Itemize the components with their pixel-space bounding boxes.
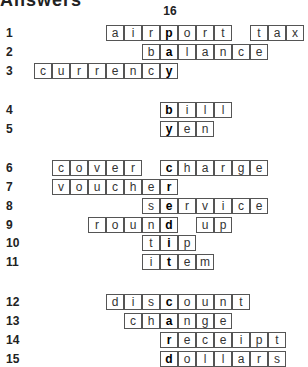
letter-cell: c <box>232 198 250 214</box>
letter-cell: u <box>196 294 214 310</box>
letter-cell: n <box>214 44 232 60</box>
letter-cell: r <box>196 25 214 41</box>
key-letter-cell: b <box>160 102 178 118</box>
letter-cell: t <box>268 332 286 348</box>
letter-cell: x <box>286 25 304 41</box>
letter-cell: e <box>250 160 268 176</box>
letter-cell: t <box>232 294 250 310</box>
letter-cell: i <box>232 332 250 348</box>
letter-cell: r <box>88 63 106 79</box>
letter-cell: u <box>196 217 214 233</box>
letter-cell: n <box>196 121 214 137</box>
letter-cell: v <box>196 198 214 214</box>
row-number: 12 <box>6 295 28 309</box>
row-number: 13 <box>6 314 28 328</box>
letter-cell: s <box>268 351 286 367</box>
letter-cell: n <box>214 294 232 310</box>
key-letter-cell: r <box>160 179 178 195</box>
row-number: 5 <box>6 122 28 136</box>
letter-cell: c <box>124 313 142 329</box>
letter-cell: h <box>124 179 142 195</box>
letter-cell: l <box>178 44 196 60</box>
letter-cell: o <box>178 25 196 41</box>
key-letter-cell: p <box>160 25 178 41</box>
letter-cell: r <box>124 160 142 176</box>
row-number: 2 <box>6 45 28 59</box>
letter-cell: r <box>250 351 268 367</box>
hidden-word-number: 16 <box>161 4 179 18</box>
letter-cell: a <box>106 25 124 41</box>
letter-cell: i <box>124 25 142 41</box>
letter-cell: e <box>178 332 196 348</box>
letter-cell: e <box>214 313 232 329</box>
letter-cell: i <box>142 254 160 270</box>
key-letter-cell: y <box>160 63 178 79</box>
letter-cell: r <box>214 160 232 176</box>
key-letter-cell: c <box>160 294 178 310</box>
letter-cell: t <box>214 25 232 41</box>
row-number: 11 <box>6 255 28 269</box>
letter-cell: a <box>268 25 286 41</box>
letter-cell: m <box>196 254 214 270</box>
key-letter-cell: t <box>160 254 178 270</box>
letter-cell: o <box>70 179 88 195</box>
letter-cell: h <box>178 160 196 176</box>
letter-cell: u <box>88 179 106 195</box>
letter-cell: g <box>196 313 214 329</box>
letter-cell: e <box>142 179 160 195</box>
letter-cell: l <box>196 351 214 367</box>
letter-cell: i <box>178 102 196 118</box>
row-number: 7 <box>6 180 28 194</box>
letter-cell: a <box>232 351 250 367</box>
row-number: 3 <box>6 64 28 78</box>
letter-cell: l <box>214 102 232 118</box>
letter-cell: c <box>196 332 214 348</box>
letter-cell: i <box>124 294 142 310</box>
letter-cell: v <box>88 160 106 176</box>
letter-cell: t <box>142 235 160 251</box>
letter-cell: r <box>178 198 196 214</box>
row-number: 9 <box>6 218 28 232</box>
letter-cell: s <box>142 198 160 214</box>
key-letter-cell: r <box>160 332 178 348</box>
key-letter-cell: a <box>160 44 178 60</box>
row-number: 15 <box>6 352 28 366</box>
key-letter-cell: i <box>160 235 178 251</box>
letter-cell: l <box>214 351 232 367</box>
letter-cell: e <box>250 198 268 214</box>
letter-cell: e <box>106 63 124 79</box>
letter-cell: b <box>142 44 160 60</box>
letter-cell: r <box>142 25 160 41</box>
letter-cell: p <box>214 217 232 233</box>
row-number: 8 <box>6 199 28 213</box>
letter-cell: n <box>142 217 160 233</box>
letter-cell: s <box>142 294 160 310</box>
letter-cell: a <box>196 160 214 176</box>
row-number: 4 <box>6 103 28 117</box>
letter-cell: o <box>178 351 196 367</box>
letter-cell: u <box>52 63 70 79</box>
row-number: 14 <box>6 333 28 347</box>
letter-cell: u <box>124 217 142 233</box>
letter-cell: c <box>106 179 124 195</box>
page-title: Answers <box>0 0 82 11</box>
letter-cell: o <box>178 294 196 310</box>
letter-cell: c <box>34 63 52 79</box>
letter-cell: d <box>106 294 124 310</box>
letter-cell: o <box>106 217 124 233</box>
letter-cell: c <box>52 160 70 176</box>
key-letter-cell: d <box>160 351 178 367</box>
letter-cell: c <box>232 44 250 60</box>
letter-cell: v <box>52 179 70 195</box>
row-number: 10 <box>6 236 28 250</box>
letter-cell: n <box>124 63 142 79</box>
letter-cell: r <box>70 63 88 79</box>
key-letter-cell: y <box>160 121 178 137</box>
key-letter-cell: c <box>160 160 178 176</box>
letter-cell: l <box>196 102 214 118</box>
letter-cell: e <box>178 254 196 270</box>
letter-cell: e <box>214 332 232 348</box>
letter-cell: c <box>142 63 160 79</box>
key-letter-cell: e <box>160 198 178 214</box>
letter-cell: h <box>142 313 160 329</box>
